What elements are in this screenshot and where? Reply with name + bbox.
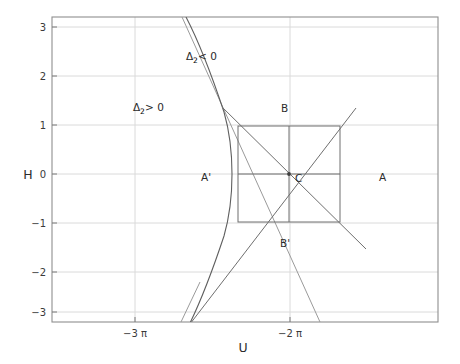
delta2-negative-relation: < 0 [198,50,217,62]
ytick-label-neg1: −1 [31,218,46,229]
ytick-label-1: 1 [40,120,46,131]
point-label-B: B [281,102,288,114]
figure-background [0,0,460,364]
ytick-label-0: 0 [40,169,46,180]
center-point-marker [287,172,291,176]
xtick-label-neg3pi: −3 π [123,328,147,339]
point-label-A: A [379,171,387,183]
point-label-A-prime: A' [201,171,211,183]
point-label-B-prime: B' [280,237,290,249]
ytick-label-3: 3 [40,22,46,33]
phase-diagram-figure: 3 2 1 0 −1 −2 −3 −3 π −2 π H U Δ 2 < 0 Δ… [0,0,460,364]
ytick-label-neg2: −2 [31,267,46,278]
point-label-C: C [295,172,302,184]
xtick-label-neg2pi: −2 π [278,328,302,339]
ytick-label-2: 2 [40,71,46,82]
delta2-positive-relation: > 0 [145,101,164,113]
y-axis-title: H [23,167,32,182]
ytick-label-neg3: −3 [31,307,46,318]
x-axis-title: U [238,340,247,355]
